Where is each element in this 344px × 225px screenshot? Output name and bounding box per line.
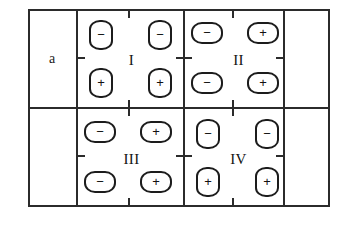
charge-sign: − xyxy=(156,28,164,41)
domain-symbol-q2-top-left: − xyxy=(191,22,223,44)
domain-symbol-q1-top-right: − xyxy=(148,20,172,50)
charge-sign: + xyxy=(152,125,160,138)
charge-sign: + xyxy=(263,175,271,188)
charge-sign: − xyxy=(203,26,211,39)
charge-sign: + xyxy=(156,76,164,89)
domain-symbol-q1-bottom-right: + xyxy=(148,68,172,98)
panel-label-text: a xyxy=(49,51,55,67)
charge-sign: − xyxy=(203,76,211,89)
domain-symbol-q3-bottom-left: − xyxy=(84,171,116,193)
panel-label-a: a xyxy=(28,9,76,108)
domain-symbol-q4-top-right: − xyxy=(255,119,279,149)
charge-sign: − xyxy=(96,125,104,138)
charge-sign: + xyxy=(259,26,267,39)
domain-symbol-q3-top-left: − xyxy=(84,121,116,143)
domain-symbol-q4-top-left: − xyxy=(196,119,220,149)
charge-sign: − xyxy=(97,28,105,41)
quadrant-1: I − − + + xyxy=(78,11,185,110)
domain-symbol-q2-top-right: + xyxy=(247,22,279,44)
charge-sign: − xyxy=(263,127,271,140)
domain-symbol-q1-bottom-left: + xyxy=(89,68,113,98)
charge-sign: + xyxy=(97,76,105,89)
grid-line-right xyxy=(328,9,330,207)
charge-sign: + xyxy=(204,175,212,188)
domain-symbol-q2-bottom-left: − xyxy=(191,72,223,94)
charge-sign: − xyxy=(96,175,104,188)
domain-symbol-q2-bottom-right: + xyxy=(247,72,279,94)
quadrant-3: III − + − + xyxy=(78,110,185,209)
charge-sign: + xyxy=(259,76,267,89)
domain-symbol-q3-top-right: + xyxy=(140,121,172,143)
domain-symbol-q4-bottom-right: + xyxy=(255,167,279,197)
domain-symbol-q3-bottom-right: + xyxy=(140,171,172,193)
quadrant-2: II − + − + xyxy=(185,11,292,110)
quadrant-4: IV − − + + xyxy=(185,110,292,209)
domain-symbol-q4-bottom-left: + xyxy=(196,167,220,197)
charge-sign: − xyxy=(204,127,212,140)
charge-sign: + xyxy=(152,175,160,188)
figure-panel: a I − − + + II − + − + III xyxy=(0,0,344,225)
domain-symbol-q1-top-left: − xyxy=(89,20,113,50)
